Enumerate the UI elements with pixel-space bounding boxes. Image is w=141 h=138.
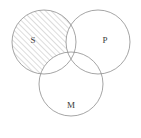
shaded-region-s-only [0, 0, 141, 138]
circle-label-p: P [102, 35, 107, 45]
s-only-hatch-fill [0, 0, 141, 138]
venn-diagram-svg: S P M [0, 0, 141, 138]
venn-diagram-figure: S P M [0, 0, 141, 138]
circle-label-s: S [30, 35, 35, 45]
circle-label-m: M [67, 100, 75, 110]
